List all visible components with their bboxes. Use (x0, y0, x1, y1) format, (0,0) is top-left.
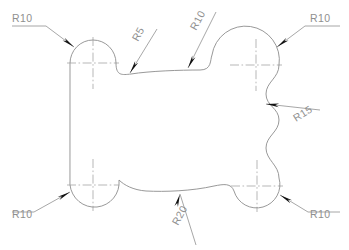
r5-top-center-left-arrowhead (128, 61, 138, 74)
dimension-r10-bottom-left: R10 (12, 190, 71, 220)
dimension-r10-top-center-right: R10 (186, 8, 216, 69)
r10-bottom-left-label: R10 (12, 208, 32, 220)
r10-top-center-right-arrowhead (186, 56, 195, 69)
dimension-r10-bottom-right: R10 (279, 193, 340, 220)
dimension-r10-top-right: R10 (276, 12, 340, 48)
profile-outline-path (70, 26, 280, 208)
center-marks-group (67, 37, 283, 212)
r10-top-right-label: R10 (310, 12, 330, 24)
technical-drawing-canvas: R10R5R10R10R15R10R20R10 (0, 0, 349, 250)
dimension-r5-top-center-left: R5 (128, 25, 157, 74)
radius-dimensions-group: R10R5R10R10R15R10R20R10 (12, 8, 340, 245)
r5-top-center-left-label: R5 (129, 25, 146, 43)
cad-drawing-svg: R10R5R10R10R15R10R20R10 (0, 0, 349, 250)
dimension-r10-top-left: R10 (12, 12, 75, 48)
r10-bottom-right-arrowhead (279, 193, 292, 203)
r15-right-label: R15 (291, 103, 315, 124)
part-profile-outline (70, 26, 280, 208)
r10-bottom-left-arrowhead (58, 190, 71, 199)
r10-top-center-right-label: R10 (187, 8, 207, 32)
dimension-r15-right: R15 (266, 102, 320, 123)
r10-top-left-label: R10 (12, 12, 32, 24)
r10-bottom-right-label: R10 (310, 208, 330, 220)
dimension-r20-bottom-center: R20 (169, 193, 196, 245)
